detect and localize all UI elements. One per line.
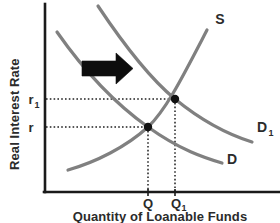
demand-curve-shifted-label-base: D xyxy=(257,119,267,135)
y-tick-label-r-base: r xyxy=(28,120,33,135)
x-tick-label-q1-subscript: 1 xyxy=(181,203,186,213)
y-axis-title: Real Interest Rate xyxy=(7,58,22,170)
x-axis-title: Quantity of Loanable Funds xyxy=(73,209,248,223)
loanable-funds-diagram: Real Interest Rate Quantity of Loanable … xyxy=(0,0,280,223)
chart-canvas: Real Interest Rate Quantity of Loanable … xyxy=(0,0,280,223)
y-tick-label-r1: r 1 xyxy=(28,92,39,110)
equilibrium-point-new xyxy=(171,95,179,103)
y-tick-label-r1-subscript: 1 xyxy=(34,100,39,110)
demand-curve-original-label: D xyxy=(227,151,237,167)
y-tick-label-r: r xyxy=(28,120,33,135)
demand-curve-shifted-label-subscript: 1 xyxy=(268,128,273,138)
x-tick-label-q1: Q 1 xyxy=(171,196,187,213)
demand-curve-shifted-label: D 1 xyxy=(257,119,274,138)
x-tick-label-q-base: Q xyxy=(143,196,153,211)
y-tick-label-r1-base: r xyxy=(28,92,33,107)
x-tick-label-q: Q xyxy=(143,196,153,211)
supply-curve-label: S xyxy=(215,11,224,27)
x-tick-label-q1-base: Q xyxy=(171,196,181,211)
shift-arrow xyxy=(82,53,133,84)
equilibrium-point-initial xyxy=(144,123,152,131)
